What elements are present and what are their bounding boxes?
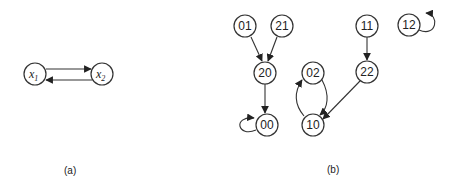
node-12: 12	[398, 14, 420, 36]
edge-22-to-10	[323, 81, 360, 119]
caption-b: (b)	[327, 164, 339, 175]
node-x2: x2	[91, 63, 113, 85]
svg-text:20: 20	[258, 66, 272, 80]
node-02: 02	[302, 62, 324, 84]
edge-21-to-20	[268, 37, 277, 61]
self-loop-00	[240, 118, 256, 132]
svg-text:11: 11	[361, 19, 374, 33]
node-00: 00	[256, 114, 278, 136]
svg-text:00: 00	[260, 118, 274, 132]
svg-text:22: 22	[360, 65, 374, 79]
svg-text:02: 02	[306, 66, 320, 80]
node-22: 22	[356, 61, 378, 83]
self-loop-12	[419, 13, 435, 32]
state-diagram: x1 x2 01 21 20 00 02 10 11 22 12	[0, 0, 464, 185]
svg-text:01: 01	[238, 19, 252, 33]
caption-a: (a)	[64, 165, 76, 176]
node-21: 21	[271, 15, 293, 37]
svg-text:10: 10	[306, 118, 320, 132]
node-10: 10	[302, 114, 324, 136]
edge-01-to-20	[251, 37, 262, 61]
node-01: 01	[234, 15, 256, 37]
svg-text:12: 12	[402, 18, 416, 32]
edge-10-to-02	[296, 80, 304, 116]
panel-a: x1 x2	[24, 63, 113, 85]
svg-text:21: 21	[275, 19, 289, 33]
edge-02-to-10	[320, 80, 327, 115]
panel-b-nodes: 01 21 20 00 02 10 11 22 12	[234, 14, 420, 136]
node-x1: x1	[24, 63, 46, 85]
node-20: 20	[254, 62, 276, 84]
node-11: 11	[356, 15, 378, 37]
